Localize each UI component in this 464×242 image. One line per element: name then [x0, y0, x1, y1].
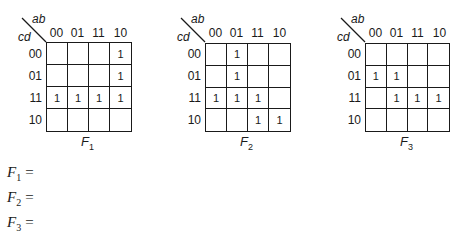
kmap-cell [206, 109, 227, 131]
kmap-cell: 1 [68, 87, 89, 109]
kmap-cell [387, 44, 408, 66]
column-header: 00 [365, 26, 386, 40]
columns-variable-label: ab [351, 12, 364, 26]
kmap-cell: 1 [110, 65, 131, 87]
kmap-cell [248, 66, 269, 88]
kmap-cell [47, 65, 68, 87]
column-header: 00 [205, 26, 226, 40]
kmap-grid: 1 1 1 1 1 [365, 43, 450, 132]
kmap-title: F2 [240, 134, 253, 152]
kmap-cell [387, 109, 408, 131]
kmap-grid: 1 1 1 1 1 1 1 [205, 43, 291, 132]
row-header: 01 [341, 69, 361, 83]
kmap-cell [269, 88, 290, 110]
rows-variable-label: cd [337, 30, 350, 44]
row-header: 11 [181, 91, 201, 105]
kmap-cell [227, 109, 248, 131]
kmap-cell: 1 [408, 88, 429, 110]
columns-variable-label: ab [191, 12, 204, 26]
row-header: 10 [22, 113, 42, 127]
equation-f3: F3= [7, 214, 34, 233]
kmap-cell: 1 [248, 88, 269, 110]
equation-f1: F1= [7, 164, 34, 183]
column-header: 01 [226, 26, 247, 40]
kmap-f3: ab cd 00 01 11 10 00 01 11 10 1 1 1 1 1 … [319, 0, 464, 160]
kmap-cell: 1 [227, 44, 248, 66]
kmap-cell [248, 44, 269, 66]
kmap-cell: 1 [428, 88, 449, 110]
kmap-cell [206, 44, 227, 66]
kmap-cell [408, 66, 429, 88]
row-header: 00 [181, 47, 201, 61]
kmap-cell: 1 [227, 66, 248, 88]
kmap-cell: 1 [227, 88, 248, 110]
column-header: 10 [110, 26, 131, 40]
kmap-cell [269, 66, 290, 88]
row-header: 10 [181, 113, 201, 127]
kmap-cell: 1 [47, 87, 68, 109]
kmap-cell [89, 109, 110, 131]
kmap-cell [408, 109, 429, 131]
row-header: 11 [22, 91, 42, 105]
kmap-cell: 1 [269, 109, 290, 131]
kmap-cell [89, 43, 110, 65]
kmap-title: F3 [400, 134, 413, 152]
kmap-cell [68, 65, 89, 87]
kmap-cell [366, 109, 387, 131]
kmap-cell [428, 44, 449, 66]
kmap-cell: 1 [387, 88, 408, 110]
column-header: 11 [247, 26, 268, 40]
column-header: 11 [88, 26, 109, 40]
kmap-cell: 1 [366, 66, 387, 88]
kmap-cell [428, 109, 449, 131]
row-header: 00 [22, 47, 42, 61]
kmap-f2: ab cd 00 01 11 10 00 01 11 10 1 1 1 1 1 … [159, 0, 309, 160]
kmap-grid: 1 1 1 1 1 1 [46, 42, 132, 132]
kmap-cell [68, 43, 89, 65]
kmap-cell: 1 [110, 43, 131, 65]
kmap-cell [366, 88, 387, 110]
kmap-cell [366, 44, 387, 66]
column-header: 01 [386, 26, 407, 40]
kmap-f1: ab cd 00 01 11 10 00 01 11 10 1 1 1 1 1 … [0, 0, 150, 160]
kmap-cell [269, 44, 290, 66]
kmap-cell [408, 44, 429, 66]
equation-f2: F2= [7, 189, 34, 208]
rows-variable-label: cd [177, 30, 190, 44]
row-header: 01 [22, 69, 42, 83]
kmap-cell: 1 [110, 87, 131, 109]
row-header: 11 [341, 91, 361, 105]
kmap-cell [68, 109, 89, 131]
kmap-cell: 1 [89, 87, 110, 109]
kmap-cell [206, 66, 227, 88]
column-header: 10 [269, 26, 290, 40]
columns-variable-label: ab [32, 12, 45, 26]
kmap-cell: 1 [248, 109, 269, 131]
row-header: 00 [341, 47, 361, 61]
kmap-cell: 1 [387, 66, 408, 88]
row-header: 10 [341, 113, 361, 127]
kmap-cell [89, 65, 110, 87]
kmap-cell: 1 [206, 88, 227, 110]
row-header: 01 [181, 69, 201, 83]
kmap-cell [110, 109, 131, 131]
kmap-title: F1 [81, 134, 94, 152]
column-header: 10 [429, 26, 450, 40]
column-header: 01 [67, 26, 88, 40]
column-header: 11 [407, 26, 428, 40]
column-header: 00 [46, 26, 67, 40]
kmap-cell [428, 66, 449, 88]
kmap-cell [47, 43, 68, 65]
kmap-cell [47, 109, 68, 131]
rows-variable-label: cd [18, 30, 31, 44]
